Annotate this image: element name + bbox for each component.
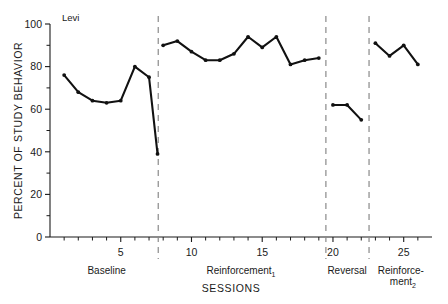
phase-label-reinforcement: Reinforcement1: [207, 265, 276, 278]
data-point: [402, 43, 406, 47]
data-point: [161, 43, 165, 47]
data-line-reversal: [333, 105, 361, 120]
data-point: [317, 56, 321, 60]
data-point: [388, 54, 392, 58]
y-axis-tick-label: 60: [30, 103, 42, 115]
x-axis-tick-label: 25: [398, 246, 410, 258]
data-point: [359, 118, 363, 122]
data-point: [156, 152, 160, 156]
y-axis-tick-label: 100: [24, 18, 42, 30]
line-chart: 020406080100510152025PERCENT OF STUDY BE…: [0, 0, 448, 304]
data-point: [190, 50, 194, 54]
data-line-baseline: [64, 67, 157, 154]
data-point: [76, 90, 80, 94]
data-point: [331, 103, 335, 107]
phase-label-baseline: Baseline: [87, 265, 126, 276]
data-point: [133, 65, 137, 69]
x-axis-tick-label: 10: [186, 246, 198, 258]
x-axis-tick-label: 20: [327, 246, 339, 258]
phase-label-reinforce: Reinforce-ment2: [378, 265, 424, 289]
y-axis-tick-label: 20: [30, 188, 42, 200]
y-axis-tick-label: 0: [36, 231, 42, 243]
data-point: [105, 101, 109, 105]
data-point: [345, 103, 349, 107]
data-point: [416, 63, 420, 67]
x-axis-tick-label: 15: [256, 246, 268, 258]
x-axis-title: SESSIONS: [202, 282, 260, 294]
subject-label: Levi: [62, 12, 79, 23]
y-axis-tick-label: 40: [30, 146, 42, 158]
data-point: [274, 35, 278, 39]
y-axis-title: PERCENT OF STUDY BEHAVIOR: [12, 42, 24, 219]
data-point: [91, 99, 95, 103]
data-point: [62, 73, 66, 77]
chart-container: 020406080100510152025PERCENT OF STUDY BE…: [0, 0, 448, 304]
data-point: [260, 46, 264, 50]
data-line-reinforcement-1: [163, 37, 319, 65]
phase-label-reversal: Reversal: [327, 265, 366, 276]
data-point: [303, 58, 307, 62]
data-point: [175, 39, 179, 43]
data-point: [147, 75, 151, 79]
data-point: [246, 35, 250, 39]
data-point: [374, 41, 378, 45]
data-point: [204, 58, 208, 62]
data-point: [218, 58, 222, 62]
x-axis-tick-label: 5: [118, 246, 124, 258]
data-point: [289, 63, 293, 67]
data-point: [232, 52, 236, 56]
data-line-reinforcement-2: [375, 43, 417, 64]
data-point: [119, 99, 123, 103]
y-axis-tick-label: 80: [30, 60, 42, 72]
